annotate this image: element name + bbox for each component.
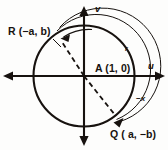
arc-radius-label: r xyxy=(125,45,128,52)
radius-to-Q xyxy=(84,76,115,115)
point-label-R: R (−a, b) xyxy=(8,26,51,37)
point-label-Q: Q ( a, −b) xyxy=(110,129,156,140)
negative-x-label: −x xyxy=(136,95,145,103)
radius-to-R xyxy=(62,42,84,76)
r-label-leader xyxy=(53,39,61,47)
v-axis-label: v xyxy=(95,4,100,14)
v-axis-bottom-arrowhead xyxy=(79,136,88,146)
u-axis-left-arrowhead xyxy=(3,71,13,80)
winding-arc-arrowhead xyxy=(114,118,124,128)
unit-circle-figure: R (−a, b) A (1, 0) Q ( a, −b) v u −x r xyxy=(0,0,168,150)
rotation-arrow-to-R xyxy=(61,29,93,42)
point-label-A: A (1, 0) xyxy=(95,63,130,74)
u-axis-label: u xyxy=(148,61,154,71)
